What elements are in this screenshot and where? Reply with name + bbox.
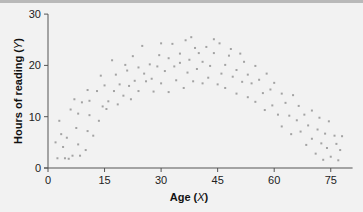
x-tick-label: 30 [155,174,167,186]
data-point [158,54,160,56]
data-point [337,159,339,161]
data-point [311,110,313,112]
data-point [79,155,81,157]
data-point [213,52,215,54]
data-point [339,149,341,151]
data-point [119,83,121,85]
data-point [196,68,198,70]
data-point [122,95,124,97]
data-point [88,114,90,116]
x-tick-label: 0 [45,174,51,186]
data-point [183,87,185,89]
data-point [254,65,256,67]
x-axis-title: Age (X) [170,191,209,203]
data-point [58,120,60,122]
data-point [145,80,147,82]
data-point [190,36,192,38]
data-point [262,92,264,94]
data-point [285,102,287,104]
data-point [207,77,209,79]
data-point [198,52,200,54]
data-point [251,82,253,84]
data-point [87,130,89,132]
data-point [202,82,204,84]
y-tick-label: 30 [29,8,41,20]
y-tick-label: 0 [35,162,41,174]
data-point [179,62,181,64]
data-point [317,129,319,131]
data-point [153,91,155,93]
data-point [151,78,153,80]
data-point [134,80,136,82]
data-point [318,117,320,119]
data-point [236,93,238,95]
data-point [175,79,177,81]
data-point [81,101,83,103]
data-point [298,105,300,107]
data-point [68,158,70,160]
data-point [107,100,109,102]
data-point [281,93,283,95]
data-point [277,114,279,116]
data-point [168,91,170,93]
data-point [300,131,302,133]
data-point [75,127,77,129]
data-point [160,82,162,84]
scatter-chart: 010203001530456075 Age (X) Hours of read… [0,0,363,212]
data-point [219,42,221,44]
data-point [72,155,74,157]
data-point [186,72,188,74]
data-point [188,59,190,61]
data-point [292,94,294,96]
data-point [271,104,273,106]
y-tick-label: 10 [29,111,41,123]
data-point [111,59,113,61]
data-point [77,143,79,145]
data-point [143,73,145,75]
data-point [92,135,94,137]
data-point [168,57,170,59]
data-point [264,109,266,111]
data-point [254,101,256,103]
data-point [266,73,268,75]
data-point [117,103,119,105]
data-point [124,64,126,66]
x-tick-label: 45 [212,174,224,186]
data-point [228,55,230,57]
data-point [137,66,139,68]
data-point [311,138,313,140]
data-point [290,133,292,135]
data-point [239,53,241,55]
data-point [258,79,260,81]
data-point [320,142,322,144]
data-point [326,147,328,149]
data-point [213,38,215,40]
data-point [205,46,207,48]
y-axis-title: Hours of reading (Y) [12,38,24,144]
data-point [247,96,249,98]
data-point [156,65,158,67]
data-point [126,70,128,72]
data-point [105,108,107,110]
data-point [96,90,98,92]
data-point [160,42,162,44]
data-point [77,113,79,115]
data-point [149,63,151,65]
data-point [55,141,57,143]
data-point [132,55,134,57]
data-point [328,120,330,122]
data-point [115,74,117,76]
data-point [303,114,305,116]
data-point [130,98,132,100]
data-point [334,135,336,137]
data-point [224,64,226,66]
data-point [224,87,226,89]
axes: 010203001530456075 [29,8,353,186]
data-point [102,105,104,107]
data-point [241,81,243,83]
data-point [202,61,204,63]
data-point [66,137,68,139]
data-point [137,90,139,92]
data-point [56,157,58,159]
data-point [194,47,196,49]
